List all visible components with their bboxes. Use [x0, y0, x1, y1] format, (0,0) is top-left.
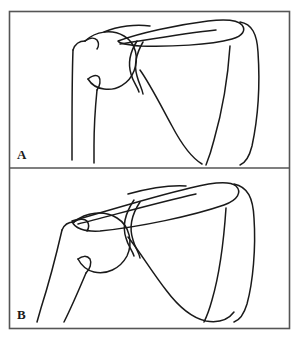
shoulder-anatomy-figure — [0, 0, 304, 338]
panel-label-a: A — [17, 148, 27, 161]
panel-label-b: B — [17, 308, 26, 321]
figure-root: A B — [0, 0, 304, 338]
